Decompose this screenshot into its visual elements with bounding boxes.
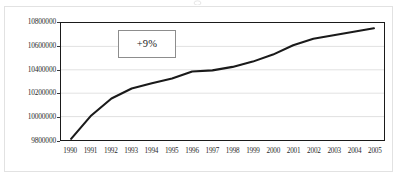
chart-figure: 9800000100000001020000010400000106000001… xyxy=(0,0,397,182)
y-axis-tick-label: 10000000 xyxy=(28,113,56,120)
y-axis-tick-mark xyxy=(57,141,60,142)
plot-area xyxy=(60,22,385,141)
x-axis-tick-label: 2003 xyxy=(323,148,345,155)
y-axis-tick-label: 10800000 xyxy=(28,18,56,25)
x-axis-tick-label: 1993 xyxy=(120,148,142,155)
growth-annotation-label: +9% xyxy=(137,39,158,50)
x-axis-tick-label: 1999 xyxy=(242,148,264,155)
x-axis-tick-label: 1992 xyxy=(100,148,122,155)
x-axis-tick-label: 2004 xyxy=(344,148,366,155)
data-series-line xyxy=(61,23,384,140)
y-axis-tick-label: 10400000 xyxy=(28,66,56,73)
y-axis-tick-label: 10200000 xyxy=(28,89,56,96)
x-axis-tick-label: 2002 xyxy=(303,148,325,155)
growth-annotation-box: +9% xyxy=(118,30,176,58)
x-axis-tick-label: 1990 xyxy=(59,148,81,155)
x-axis-tick-label: 1995 xyxy=(161,148,183,155)
x-axis-tick-label: 2001 xyxy=(283,148,305,155)
x-axis-tick-label: 1994 xyxy=(140,148,162,155)
crop-artifact-mark xyxy=(192,0,203,5)
x-axis-tick-label: 1991 xyxy=(79,148,101,155)
y-axis-tick-label: 10600000 xyxy=(28,42,56,49)
x-axis-tick-label: 2005 xyxy=(364,148,386,155)
x-axis-tick-label: 1996 xyxy=(181,148,203,155)
y-axis-tick-label: 9800000 xyxy=(31,137,56,144)
x-axis-tick-label: 1998 xyxy=(222,148,244,155)
x-axis-tick-label: 1997 xyxy=(201,148,223,155)
x-axis-tick-label: 2000 xyxy=(262,148,284,155)
